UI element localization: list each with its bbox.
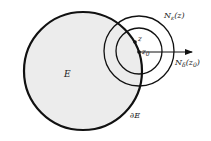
set-e-label: E [64,70,71,79]
diagram: E ∂E z z0 Nε(z) Nδ(z0) [0,0,211,141]
point-z-label: z [138,36,142,43]
outer-neighborhood-label: Nε(z) [164,12,185,21]
diagram-canvas [0,0,211,141]
inner-neighborhood-label: Nδ(z0) [175,59,200,68]
set-e-region [24,12,142,130]
point-z0-label: z0 [142,49,150,57]
boundary-label: ∂E [130,112,140,120]
point-z [133,40,137,44]
point-z0 [137,50,141,54]
